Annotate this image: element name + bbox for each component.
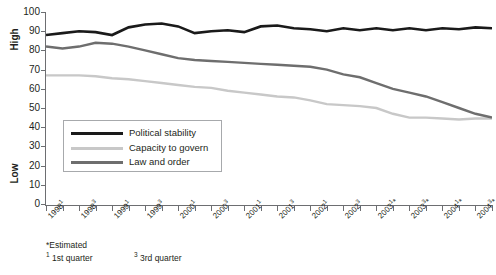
legend-item-political-stability: Political stability bbox=[71, 126, 217, 140]
source-strip bbox=[0, 266, 496, 275]
y-tick-mark-40 bbox=[41, 127, 46, 128]
series-line-law-and-order bbox=[46, 43, 492, 118]
footnote-text-1: 1st quarter bbox=[52, 253, 93, 263]
chart-container: High Low 1009080706050403020100 19981199… bbox=[0, 0, 496, 275]
y-tick-mark-10 bbox=[41, 185, 46, 186]
y-tick-label-50: 50 bbox=[14, 103, 40, 113]
y-tick-mark-20 bbox=[41, 166, 46, 167]
y-tick-label-10: 10 bbox=[14, 180, 40, 190]
footnote-first-quarter: 1 1st quarter bbox=[46, 251, 93, 263]
footnote-text-3: 3rd quarter bbox=[140, 253, 182, 263]
y-tick-mark-80 bbox=[41, 50, 46, 51]
legend-label-political-stability: Political stability bbox=[129, 126, 196, 140]
legend-swatch-capacity-to-govern bbox=[71, 147, 123, 150]
footnote-third-quarter: 3 3rd quarter bbox=[134, 251, 182, 263]
y-tick-label-60: 60 bbox=[14, 84, 40, 94]
legend-label-capacity-to-govern: Capacity to govern bbox=[129, 141, 208, 155]
y-tick-mark-0 bbox=[41, 204, 46, 205]
legend-item-law-and-order: Law and order bbox=[71, 155, 217, 169]
legend-item-capacity-to-govern: Capacity to govern bbox=[71, 141, 217, 155]
y-tick-label-90: 90 bbox=[14, 26, 40, 36]
y-tick-label-20: 20 bbox=[14, 161, 40, 171]
legend-swatch-political-stability bbox=[71, 132, 123, 135]
plot-area bbox=[46, 12, 492, 204]
series-line-political-stability bbox=[46, 24, 492, 36]
y-tick-label-80: 80 bbox=[14, 45, 40, 55]
y-tick-label-70: 70 bbox=[14, 65, 40, 75]
y-tick-mark-90 bbox=[41, 31, 46, 32]
y-tick-mark-50 bbox=[41, 108, 46, 109]
y-tick-label-40: 40 bbox=[14, 122, 40, 132]
footnote-mark-1: 1 bbox=[46, 251, 50, 258]
legend-label-law-and-order: Law and order bbox=[129, 155, 190, 169]
footnote-mark-3: 3 bbox=[134, 251, 138, 258]
y-tick-mark-30 bbox=[41, 146, 46, 147]
y-axis-tick-labels: 1009080706050403020100 bbox=[14, 0, 40, 215]
y-tick-mark-70 bbox=[41, 70, 46, 71]
y-tick-mark-60 bbox=[41, 89, 46, 90]
y-tick-label-100: 100 bbox=[14, 7, 40, 17]
chart-legend: Political stability Capacity to govern L… bbox=[63, 120, 222, 172]
legend-swatch-law-and-order bbox=[71, 161, 123, 164]
footnote-estimated: *Estimated bbox=[46, 240, 87, 250]
x-axis-tick-labels: 1998119983199911999320001200032001120013… bbox=[0, 210, 496, 244]
y-tick-mark-100 bbox=[41, 12, 46, 13]
y-tick-label-30: 30 bbox=[14, 141, 40, 151]
